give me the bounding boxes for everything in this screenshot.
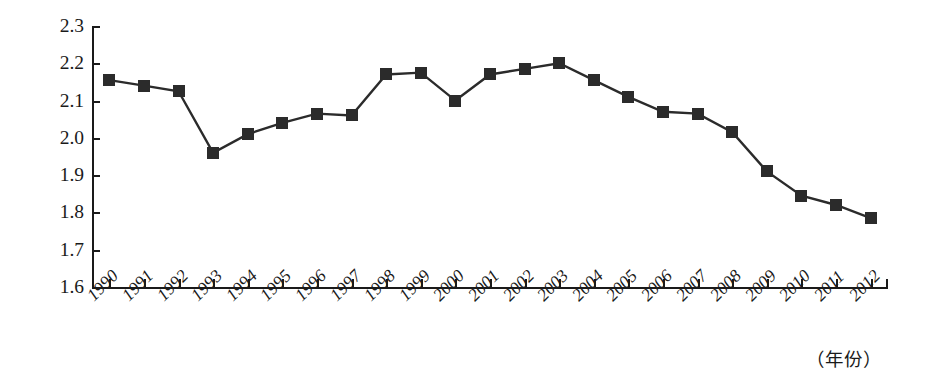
x-axis-tick-label: 2004 (569, 267, 607, 305)
x-axis-tick-label: 2000 (430, 267, 468, 305)
data-point-marker (207, 147, 219, 159)
x-axis-tick-label: 2011 (811, 268, 848, 305)
y-axis-top-cap (92, 26, 100, 28)
y-axis-tick-label: 1.9 (60, 165, 84, 185)
data-point-marker (761, 165, 773, 177)
data-point-marker (138, 80, 150, 92)
x-axis-tick-label: 1991 (119, 267, 157, 305)
data-point-marker (173, 85, 185, 97)
data-point-marker (865, 212, 877, 224)
x-axis-tick-label: 1990 (84, 267, 122, 305)
x-axis-tick-label: 1996 (292, 267, 330, 305)
y-axis-tick-label: 1.7 (60, 240, 84, 260)
x-axis-tick-label: 1995 (257, 267, 295, 305)
data-point-marker (346, 109, 358, 121)
data-point-marker (484, 68, 496, 80)
y-axis-tick-label: 2.2 (60, 54, 84, 74)
data-point-marker (553, 57, 565, 69)
x-axis-tick-label: 2009 (742, 267, 780, 305)
data-point-marker (830, 199, 842, 211)
x-axis-right-cap (886, 279, 888, 288)
x-axis-tick-label: 2003 (534, 267, 572, 305)
chart-container: 2.32.22.12.01.91.81.71.6 199019911992199… (0, 0, 945, 386)
data-point-marker (657, 106, 669, 118)
data-point-marker (415, 67, 427, 79)
x-axis-tick-label: 2008 (707, 267, 745, 305)
data-point-marker (726, 126, 738, 138)
x-axis-tick-label: 1998 (361, 267, 399, 305)
data-point-marker (795, 190, 807, 202)
x-axis-tick-label: 2012 (846, 267, 884, 305)
x-axis-tick-label: 2006 (638, 267, 676, 305)
x-axis-tick-label: 1999 (396, 267, 434, 305)
y-axis-tick-label: 2.0 (60, 128, 84, 148)
y-axis-tick-label: 1.8 (60, 203, 84, 223)
x-axis-tick-label: 1994 (223, 267, 261, 305)
data-point-marker (242, 128, 254, 140)
data-point-marker (588, 74, 600, 86)
data-point-marker (311, 108, 323, 120)
y-axis-tick-label: 1.6 (60, 277, 84, 297)
data-point-marker (692, 108, 704, 120)
x-axis-tick-label: 2002 (500, 267, 538, 305)
x-axis-tick-label: 2001 (465, 267, 503, 305)
x-axis-tick-label: 1992 (154, 267, 192, 305)
series-line (109, 63, 870, 218)
y-axis-tick-label: 2.3 (60, 16, 84, 36)
x-axis-title: （年份） (806, 345, 882, 371)
x-axis-tick-label: 2005 (603, 267, 641, 305)
x-axis-tick-label: 2007 (673, 267, 711, 305)
y-axis-tick-label: 2.1 (60, 91, 84, 111)
x-axis-tick-label: 1997 (327, 267, 365, 305)
x-axis-tick-label: 2010 (776, 267, 814, 305)
x-axis-tick-label: 1993 (188, 267, 226, 305)
data-point-marker (622, 91, 634, 103)
data-point-marker (380, 68, 392, 80)
data-point-marker (276, 117, 288, 129)
y-axis-line (92, 26, 94, 288)
data-point-marker (103, 74, 115, 86)
data-point-marker (449, 95, 461, 107)
data-point-marker (519, 63, 531, 75)
